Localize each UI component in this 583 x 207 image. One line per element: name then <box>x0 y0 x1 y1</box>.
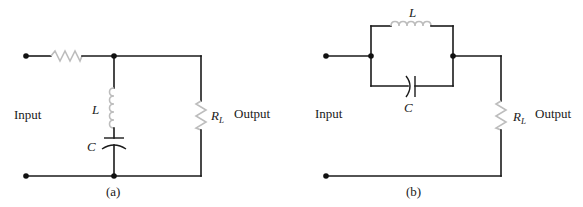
input-label-a: Input <box>14 108 41 121</box>
output-label-a: Output <box>234 107 270 120</box>
inductor-b <box>391 22 431 27</box>
load-label-b: RL <box>513 110 526 126</box>
series-resistor-a <box>51 51 82 61</box>
caption-b: (b) <box>406 185 421 198</box>
circuit-figure: Input L C RL Output (a) L C Input RL Out… <box>0 0 583 207</box>
input-terminal-bottom-a <box>23 173 29 179</box>
caption-a: (a) <box>106 185 120 198</box>
inductor-a <box>110 88 115 128</box>
junction-a-bottom <box>111 173 117 179</box>
circuit-a <box>23 51 206 179</box>
load-resistor-a <box>196 101 206 130</box>
input-terminal-top-b <box>323 53 329 59</box>
inductor-label-b: L <box>409 6 416 19</box>
output-label-b: Output <box>535 107 571 120</box>
junction-b-right <box>450 53 456 59</box>
junction-b-left <box>368 53 374 59</box>
junction-a-top <box>111 53 117 59</box>
input-terminal-top-a <box>23 53 29 59</box>
inductor-label-a: L <box>92 103 99 116</box>
circuit-b <box>323 22 506 179</box>
capacitor-label-a: C <box>87 140 96 153</box>
circuit-diagrams <box>0 0 583 207</box>
load-label-a: RL <box>211 109 224 125</box>
input-terminal-bottom-b <box>323 173 329 179</box>
load-resistor-b <box>496 101 506 130</box>
capacitor-label-b: C <box>404 101 413 114</box>
input-label-b: Input <box>315 107 342 120</box>
